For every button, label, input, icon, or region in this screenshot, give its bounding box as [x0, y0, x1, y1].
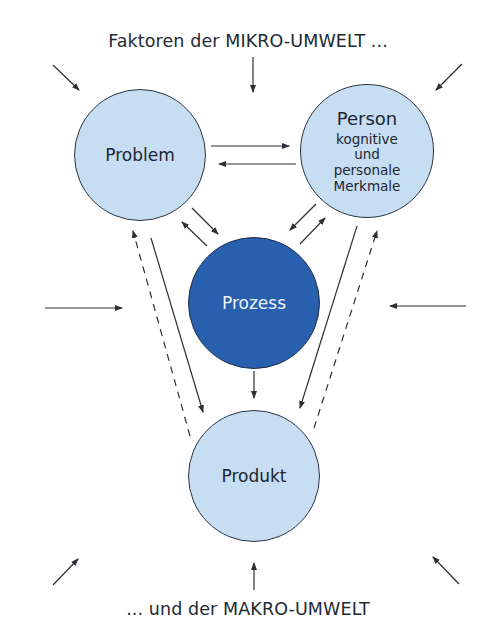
env-arrow-bottom-right — [433, 557, 459, 584]
node-person: Person kognitive und personale Merkmale — [300, 84, 434, 218]
env-arrow-top-left — [53, 65, 79, 90]
macro-environment-caption: ... und der MAKRO-UMWELT — [0, 599, 496, 619]
arrow-person-to-prozess — [290, 204, 316, 230]
node-problem: Problem — [74, 89, 206, 221]
arrow-produkt-to-person-dashed — [314, 231, 377, 428]
node-prozess: Prozess — [188, 237, 320, 369]
node-person-subline-3: personale — [334, 163, 401, 179]
arrow-prozess-to-person — [300, 218, 325, 244]
node-person-label: Person — [337, 109, 398, 129]
arrow-problem-to-prozess — [192, 208, 218, 234]
node-problem-label: Problem — [105, 146, 175, 165]
node-person-subline-4: Merkmale — [334, 179, 401, 195]
four-p-diagram: Faktoren der MIKRO-UMWELT ... — [0, 0, 496, 642]
arrow-prozess-to-problem — [182, 222, 207, 246]
node-prozess-label: Prozess — [222, 294, 286, 313]
env-arrow-top-right — [436, 64, 462, 90]
node-person-subline-2: und — [354, 147, 380, 163]
node-produkt-label: Produkt — [221, 467, 286, 486]
node-person-subline-1: kognitive — [336, 132, 398, 148]
node-produkt: Produkt — [188, 410, 320, 542]
arrow-produkt-to-problem-dashed — [133, 231, 190, 436]
env-arrow-bottom-left — [53, 559, 78, 585]
